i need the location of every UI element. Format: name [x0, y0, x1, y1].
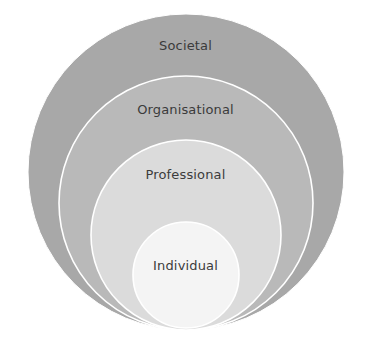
nested-circles-diagram: Societal Organisational Professional Ind…	[0, 0, 371, 348]
label-organisational: Organisational	[0, 103, 371, 116]
label-societal: Societal	[0, 39, 371, 52]
label-individual: Individual	[0, 259, 371, 272]
circle-individual	[133, 222, 239, 328]
label-professional: Professional	[0, 168, 371, 181]
